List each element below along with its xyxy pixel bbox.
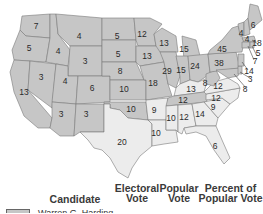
label-vt: 4 (239, 28, 244, 38)
state-fl (184, 126, 230, 164)
label-tn: 12 (178, 95, 188, 105)
label-ia: 13 (142, 51, 152, 61)
label-nh: 4 (245, 34, 250, 44)
label-ks: 10 (119, 84, 129, 94)
harding-color-swatch (6, 209, 30, 214)
label-ct: 7 (253, 56, 258, 66)
label-ut: 4 (63, 76, 68, 86)
label-tx: 20 (117, 137, 127, 147)
label-de: 3 (248, 74, 253, 84)
label-ok: 10 (126, 104, 136, 114)
header-candidate: Candidate (40, 194, 110, 204)
label-me: 6 (251, 20, 256, 30)
label-la: 10 (151, 128, 161, 138)
legend-row-harding: Warren G. Harding (6, 208, 113, 213)
label-ms: 10 (166, 113, 176, 123)
label-sc: 9 (211, 102, 216, 112)
label-co: 6 (90, 83, 95, 93)
label-nm: 3 (84, 109, 89, 119)
label-oh: 24 (190, 61, 200, 71)
label-sd: 5 (116, 49, 121, 59)
label-ca: 13 (19, 87, 29, 97)
label-mi: 15 (179, 44, 189, 54)
label-ky: 13 (186, 84, 196, 94)
state-nj (238, 54, 244, 66)
label-ny: 45 (217, 44, 227, 54)
us-electoral-map: 7 5 13 4 3 4 3 4 3 6 3 5 5 8 10 10 20 12… (0, 0, 263, 180)
label-md: 8 (243, 84, 248, 94)
label-ar: 9 (152, 105, 157, 115)
label-al: 12 (179, 112, 189, 122)
label-id: 4 (56, 46, 61, 56)
label-az: 3 (59, 109, 64, 119)
header-percent-popular-vote: Percent of Popular Vote (198, 183, 263, 203)
label-va: 12 (213, 81, 223, 91)
label-mo: 18 (148, 78, 158, 88)
label-in: 15 (176, 65, 186, 75)
label-nd: 5 (115, 31, 120, 41)
header-percent-line2: Popular Vote (198, 193, 263, 203)
label-wv: 8 (203, 78, 208, 88)
label-mt: 4 (77, 31, 82, 41)
header-popular-vote-line2: Vote (154, 193, 204, 203)
label-nc: 12 (211, 93, 221, 103)
label-ga: 14 (195, 109, 205, 119)
label-nv: 3 (39, 72, 44, 82)
state-ar (146, 98, 168, 120)
header-popular-vote: Popular Vote (154, 183, 204, 203)
label-wi: 13 (159, 38, 169, 48)
label-pa: 38 (214, 58, 224, 68)
label-wa: 7 (34, 21, 39, 31)
label-fl: 6 (213, 141, 218, 151)
candidate-name: Warren G. Harding (38, 208, 113, 213)
label-ma: 18 (252, 38, 262, 48)
label-il: 29 (162, 66, 172, 76)
label-mn: 12 (137, 29, 147, 39)
state-nm (74, 104, 104, 136)
label-wy: 3 (83, 56, 88, 66)
label-or: 5 (27, 43, 32, 53)
label-ne: 8 (118, 66, 123, 76)
